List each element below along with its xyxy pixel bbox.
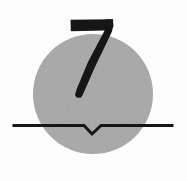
figure-svg [0,0,187,181]
circle-grain-texture [33,34,153,154]
image-canvas: Numeral seven over gray disc with notche… [0,0,187,181]
